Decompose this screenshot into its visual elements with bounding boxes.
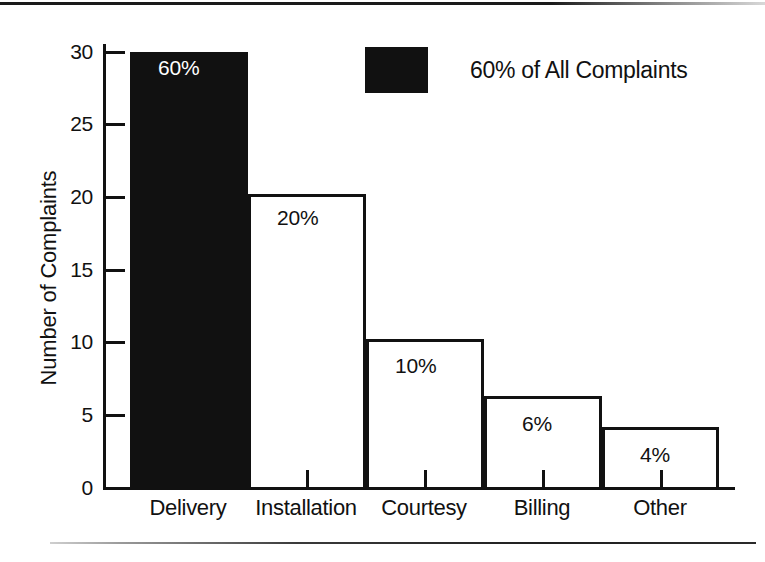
legend-swatch-icon (365, 47, 428, 93)
y-tick-25 (106, 123, 125, 126)
bar-installation[interactable] (248, 194, 366, 490)
bar-label-billing: 6% (522, 413, 552, 434)
y-tick-5 (106, 414, 125, 417)
y-tick-30 (106, 51, 125, 54)
x-label-other: Other (591, 496, 729, 520)
x-tick-courtesy (424, 470, 427, 487)
x-tick-delivery (188, 470, 191, 487)
y-axis-line (103, 44, 106, 490)
bar-label-delivery: 60% (158, 57, 199, 78)
y-tick-label-30: 30 (49, 41, 93, 62)
bar-label-installation: 20% (277, 207, 318, 228)
chart-legend: 60% of All Complaints (365, 47, 687, 93)
legend-label: 60% of All Complaints (470, 58, 687, 83)
bar-label-courtesy: 10% (395, 355, 436, 376)
y-tick-20 (106, 196, 125, 199)
bar-chart: Number of Complaints 30 25 20 15 10 5 0 … (0, 0, 765, 562)
chart-page: Number of Complaints 30 25 20 15 10 5 0 … (0, 0, 765, 562)
y-tick-label-20: 20 (49, 186, 93, 207)
page-rule-bottom (50, 542, 756, 544)
bar-label-other: 4% (640, 444, 670, 465)
y-tick-15 (106, 269, 125, 272)
y-tick-label-10: 10 (49, 331, 93, 352)
x-tick-billing (542, 470, 545, 487)
x-tick-installation (306, 470, 309, 487)
bar-delivery[interactable] (130, 52, 248, 490)
x-tick-other (660, 470, 663, 487)
y-tick-10 (106, 341, 125, 344)
y-tick-label-5: 5 (49, 404, 93, 425)
y-tick-label-0: 0 (49, 477, 93, 498)
y-tick-label-15: 15 (49, 259, 93, 280)
y-tick-label-25: 25 (49, 113, 93, 134)
